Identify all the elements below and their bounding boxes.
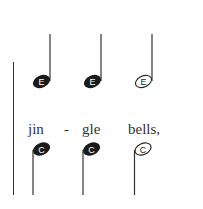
lyric-syllable: jin	[28, 120, 44, 138]
music-score: E E E C C C jin - gle bells	[0, 0, 203, 209]
note-label: E	[38, 77, 44, 87]
note-label: C	[140, 145, 147, 155]
note-label: E	[89, 77, 95, 87]
note-label: E	[140, 77, 146, 87]
note-label: C	[38, 145, 45, 155]
lyric-syllable: gle	[82, 120, 100, 138]
note-e-2: E	[82, 34, 103, 91]
note-e-3-half: E	[133, 34, 153, 90]
lyric-word: bells,	[128, 120, 160, 138]
note-c-2: C	[81, 140, 102, 195]
notation-canvas: E E E C C C	[0, 0, 203, 209]
note-c-1: C	[31, 140, 52, 195]
note-e-1: E	[31, 34, 52, 91]
lyric-hyphen: -	[64, 120, 69, 138]
note-c-3-half: C	[133, 140, 153, 195]
note-label: C	[88, 145, 95, 155]
